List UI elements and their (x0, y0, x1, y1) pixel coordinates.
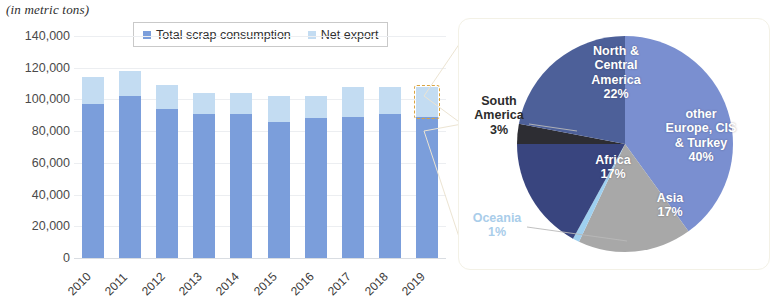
bar-segment-net-export[interactable] (82, 77, 104, 104)
x-axis-tick-label-2017: 2017 (325, 270, 354, 299)
bar-chart-panel: Total scrap consumption Net export 140,0… (0, 0, 455, 304)
bar-column-2019[interactable] (416, 36, 438, 258)
bar-segment-total-scrap-consumption[interactable] (119, 96, 141, 258)
bar-segment-net-export[interactable] (379, 87, 401, 114)
bar-column-2017[interactable] (342, 36, 364, 258)
bar-segment-total-scrap-consumption[interactable] (416, 117, 438, 258)
bar-column-2018[interactable] (379, 36, 401, 258)
bar-segment-total-scrap-consumption[interactable] (379, 114, 401, 258)
bar-segment-net-export[interactable] (305, 96, 327, 118)
x-axis-tick-label-2016: 2016 (288, 270, 317, 299)
bar-column-2016[interactable] (305, 36, 327, 258)
bar-segment-total-scrap-consumption[interactable] (305, 118, 327, 258)
pie-slices (517, 36, 733, 252)
bar-segment-total-scrap-consumption[interactable] (82, 104, 104, 258)
y-axis-tick-label: 140,000 (4, 29, 70, 43)
bar-segment-net-export[interactable] (342, 87, 364, 117)
pie-chart-svg (459, 19, 771, 271)
y-axis-tick-label: 100,000 (4, 92, 70, 106)
y-axis-tick-label: 120,000 (4, 61, 70, 75)
bar-column-2015[interactable] (268, 36, 290, 258)
bar-segment-net-export[interactable] (119, 71, 141, 96)
bar-segment-total-scrap-consumption[interactable] (156, 109, 178, 258)
bar-segment-net-export[interactable] (268, 96, 290, 121)
bar-column-2010[interactable] (82, 36, 104, 258)
y-axis-tick-label: 60,000 (4, 156, 70, 170)
y-axis-tick-label: 0 (4, 251, 70, 265)
y-axis-tick-label: 80,000 (4, 124, 70, 138)
bar-segment-net-export[interactable] (230, 93, 252, 114)
bar-column-2011[interactable] (119, 36, 141, 258)
x-axis-tick-label-2013: 2013 (176, 270, 205, 299)
bar-column-2014[interactable] (230, 36, 252, 258)
bar-segment-total-scrap-consumption[interactable] (193, 114, 215, 258)
bar-column-2012[interactable] (156, 36, 178, 258)
x-axis-tick-label-2012: 2012 (139, 270, 168, 299)
y-axis-tick-label: 40,000 (4, 188, 70, 202)
bar-segment-total-scrap-consumption[interactable] (342, 117, 364, 258)
x-axis-tick-label-2015: 2015 (251, 270, 280, 299)
pie-chart-panel: other Europe, CIS & Turkey 40% North & C… (458, 18, 770, 270)
bar-segment-total-scrap-consumption[interactable] (230, 114, 252, 258)
bar-column-2013[interactable] (193, 36, 215, 258)
x-axis-tick-label-2018: 2018 (362, 270, 391, 299)
x-axis-tick-label-2014: 2014 (213, 270, 242, 299)
bar-segment-net-export[interactable] (156, 85, 178, 109)
x-axis-tick-label-2019: 2019 (399, 270, 428, 299)
bar-segment-net-export[interactable] (193, 93, 215, 114)
y-axis-tick-label: 20,000 (4, 219, 70, 233)
bar-plot-area (74, 36, 446, 258)
y-axis-labels: 140,000120,000100,00080,00060,00040,0002… (0, 0, 70, 304)
x-axis-baseline (74, 258, 446, 259)
x-axis-tick-label-2011: 2011 (102, 270, 130, 298)
bar-segment-total-scrap-consumption[interactable] (268, 122, 290, 258)
bar-segment-net-export[interactable] (416, 87, 438, 117)
